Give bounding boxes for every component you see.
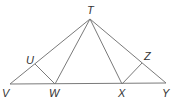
segment-VT <box>10 19 90 84</box>
label-W: W <box>49 87 61 99</box>
segment-VY <box>10 83 166 84</box>
label-V: V <box>2 87 11 99</box>
label-U: U <box>26 54 34 66</box>
label-Z: Z <box>143 50 152 62</box>
segment-TY <box>90 19 166 83</box>
label-Y: Y <box>162 87 170 99</box>
triangle-diagram: T U V W X Y Z <box>0 0 172 111</box>
segment-UW <box>35 64 55 84</box>
segment-TX <box>90 19 122 84</box>
segment-TW <box>55 19 90 84</box>
label-T: T <box>87 4 95 16</box>
label-X: X <box>117 87 126 99</box>
segment-ZX <box>122 63 142 84</box>
